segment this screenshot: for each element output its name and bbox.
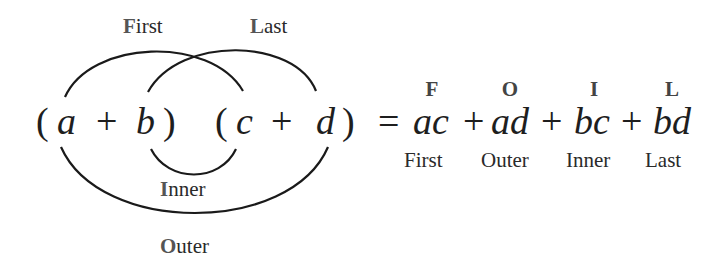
- term-label-outer: Outer: [481, 148, 529, 173]
- plus-2: +: [271, 99, 292, 143]
- term-label-inner: Inner: [566, 148, 610, 173]
- term-ad: ad: [491, 99, 529, 143]
- paren-close-2: ): [342, 99, 355, 143]
- paren-open-1: (: [36, 99, 49, 143]
- term-ac: ac: [413, 99, 449, 143]
- plus-4: +: [541, 99, 562, 143]
- var-a: a: [57, 99, 76, 143]
- inner-label-rest: nner: [168, 177, 205, 201]
- equals-sign: =: [378, 99, 399, 143]
- plus-1: +: [96, 99, 117, 143]
- var-b: b: [136, 99, 155, 143]
- last-label-rest: ast: [264, 14, 287, 38]
- var-c: c: [236, 99, 253, 143]
- first-label-rest: irst: [136, 14, 163, 38]
- outer-label-cap: O: [160, 234, 176, 258]
- last-arc: [148, 50, 316, 92]
- plus-5: +: [621, 99, 642, 143]
- var-d: d: [316, 99, 335, 143]
- first-label: First: [123, 14, 163, 39]
- last-label: Last: [250, 14, 287, 39]
- term-label-last: Last: [645, 148, 681, 173]
- plus-3: +: [463, 99, 484, 143]
- term-label-first: First: [404, 148, 443, 173]
- outer-label-rest: uter: [176, 234, 209, 258]
- first-label-cap: F: [123, 14, 136, 38]
- term-bc: bc: [574, 99, 610, 143]
- inner-label: Inner: [160, 177, 206, 202]
- paren-open-2: (: [215, 99, 228, 143]
- first-arc: [65, 52, 243, 97]
- paren-close-1: ): [163, 99, 176, 143]
- inner-arc: [151, 149, 236, 175]
- last-label-cap: L: [250, 14, 264, 38]
- outer-label: Outer: [160, 234, 209, 259]
- term-bd: bd: [653, 99, 691, 143]
- inner-label-cap: I: [160, 177, 168, 201]
